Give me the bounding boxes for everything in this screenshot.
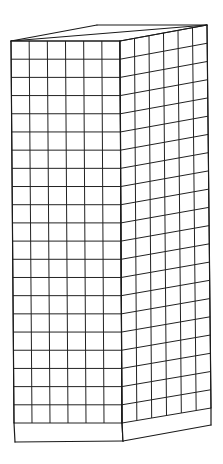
- right-face: [120, 25, 211, 441]
- grid-block-diagram: [0, 0, 223, 464]
- front-face: [11, 41, 123, 442]
